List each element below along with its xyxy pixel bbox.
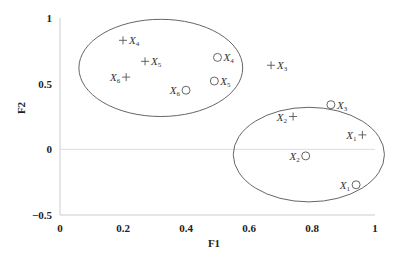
point-label: X5 xyxy=(219,75,231,89)
y-tick-label: −0.5 xyxy=(32,209,53,221)
x-tick-label: 0.2 xyxy=(116,222,130,234)
data-point: X3 xyxy=(267,59,288,73)
point-label: X2 xyxy=(288,150,300,164)
data-point: X3 xyxy=(327,99,348,113)
point-label: X4 xyxy=(223,51,235,65)
point-label: X4 xyxy=(128,34,140,48)
data-point: X5 xyxy=(210,75,231,89)
point-label: X3 xyxy=(336,99,348,113)
scatter-chart: X4X5X6X3X2X1X4X5X6X3X2X1 00.20.40.60.811… xyxy=(0,0,401,261)
data-point: X4 xyxy=(214,51,235,65)
data-point: X2 xyxy=(276,111,297,125)
x-tick-label: 0.8 xyxy=(305,222,319,234)
data-point: X4 xyxy=(119,34,140,48)
data-point: X6 xyxy=(169,84,190,98)
x-tick-label: 0.6 xyxy=(242,222,256,234)
point-label: X6 xyxy=(169,84,181,98)
circle-marker-icon xyxy=(210,77,218,85)
point-label: X3 xyxy=(276,59,288,73)
circle-marker-icon xyxy=(302,152,310,160)
y-tick-label: 1 xyxy=(47,12,53,24)
x-tick-label: 1 xyxy=(372,222,378,234)
circle-marker-icon xyxy=(327,101,335,109)
data-point: X5 xyxy=(141,55,162,69)
point-label: X1 xyxy=(339,179,351,193)
circle-marker-icon xyxy=(352,181,360,189)
circle-marker-icon xyxy=(214,53,222,61)
y-axis-title: F2 xyxy=(15,101,27,114)
circle-marker-icon xyxy=(182,86,190,94)
data-point: X6 xyxy=(109,71,130,85)
point-label: X6 xyxy=(109,71,121,85)
x-tick-label: 0.4 xyxy=(179,222,193,234)
y-tick-label: 0 xyxy=(47,143,53,155)
y-tick-label: 0.5 xyxy=(38,78,52,90)
point-label: X1 xyxy=(345,129,357,143)
axes xyxy=(60,18,375,215)
x-tick-label: 0 xyxy=(57,222,63,234)
cluster-lower-right-ellipse xyxy=(233,107,384,202)
data-point: X1 xyxy=(345,129,366,143)
point-label: X2 xyxy=(276,111,288,125)
data-point: X2 xyxy=(288,150,309,164)
x-axis-title: F1 xyxy=(208,237,220,249)
data-points: X4X5X6X3X2X1X4X5X6X3X2X1 xyxy=(109,34,366,192)
point-label: X5 xyxy=(150,55,162,69)
